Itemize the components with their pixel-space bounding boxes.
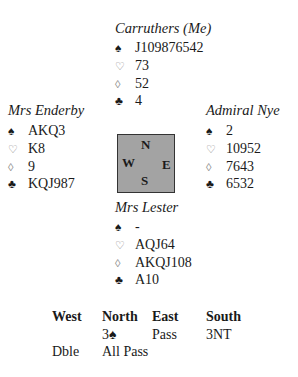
south-player-name: Mrs Lester: [115, 199, 192, 216]
north-hearts: 73: [135, 58, 149, 73]
compass-south-label: S: [141, 173, 148, 189]
spade-icon: ♠: [8, 123, 28, 141]
bid-cell: 3♠: [102, 326, 116, 344]
diamond-icon: ◊: [8, 159, 28, 177]
diamond-icon: ◊: [206, 159, 226, 177]
south-clubs: A10: [135, 272, 159, 287]
compass-west-label: W: [122, 155, 135, 171]
east-diamonds: 7643: [226, 159, 254, 174]
heart-icon: ♡: [115, 58, 135, 76]
south-spades: -: [135, 219, 140, 234]
bidding-header-east: East: [152, 308, 178, 326]
north-clubs: 4: [135, 93, 142, 108]
west-hand: Mrs Enderby ♠AKQ3 ♡K8 ◊9 ♣KQJ987: [8, 102, 84, 193]
bid-cell: 3NT: [206, 326, 232, 344]
east-hand: Admiral Nye ♠2 ♡10952 ◊7643 ♣6532: [206, 102, 280, 193]
diamond-icon: ◊: [115, 255, 135, 273]
bid-cell: All Pass: [102, 343, 148, 361]
club-icon: ♣: [8, 176, 28, 194]
west-hearts: K8: [28, 141, 45, 156]
compass-table-box: N W E S: [117, 134, 175, 193]
bid-cell: Dble: [52, 343, 79, 361]
west-clubs: KQJ987: [28, 176, 75, 191]
north-player-name: Carruthers (Me): [115, 20, 211, 37]
north-diamonds: 52: [135, 76, 149, 91]
north-hand: Carruthers (Me) ♠J109876542 ♡73 ◊52 ♣4: [115, 20, 211, 110]
club-icon: ♣: [115, 272, 135, 290]
east-spades: 2: [226, 123, 233, 138]
bidding-header-south: South: [206, 308, 241, 326]
compass-east-label: E: [162, 157, 171, 173]
west-diamonds: 9: [28, 159, 35, 174]
bid-cell: Pass: [152, 326, 177, 344]
club-icon: ♣: [115, 93, 135, 111]
south-hearts: AQJ64: [135, 237, 175, 252]
heart-icon: ♡: [206, 141, 226, 159]
north-spades: J109876542: [135, 40, 203, 55]
spade-icon: ♠: [115, 219, 135, 237]
bidding-header-west: West: [52, 308, 82, 326]
compass-north-label: N: [141, 137, 150, 153]
heart-icon: ♡: [115, 237, 135, 255]
east-player-name: Admiral Nye: [206, 102, 280, 119]
diamond-icon: ◊: [115, 76, 135, 94]
east-clubs: 6532: [226, 176, 254, 191]
west-player-name: Mrs Enderby: [8, 102, 84, 119]
heart-icon: ♡: [8, 141, 28, 159]
spade-icon: ♠: [115, 40, 135, 58]
south-hand: Mrs Lester ♠- ♡AQJ64 ◊AKQJ108 ♣A10: [115, 199, 192, 289]
club-icon: ♣: [206, 176, 226, 194]
spade-icon: ♠: [206, 123, 226, 141]
west-spades: AKQ3: [28, 123, 65, 138]
south-diamonds: AKQJ108: [135, 255, 192, 270]
east-hearts: 10952: [226, 141, 261, 156]
bidding-header-north: North: [102, 308, 138, 326]
